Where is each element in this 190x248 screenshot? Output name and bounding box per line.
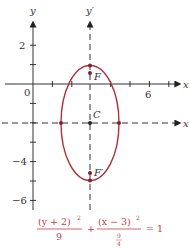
y-prime-axis-label: y′: [85, 5, 95, 16]
center-label: C: [93, 109, 101, 120]
y-axis: [30, 22, 36, 210]
eq-num1: (y + 2): [38, 216, 71, 227]
y-axis-label: y: [29, 5, 36, 16]
tick-label-x6: 6: [145, 89, 151, 100]
eq-den2-bottom: 4: [117, 240, 121, 247]
eq-den1: 9: [56, 231, 62, 242]
x-prime-axis-label: x: [183, 118, 189, 129]
eq-num2: (x − 3): [98, 216, 131, 227]
focus-f-label: F: [93, 71, 102, 82]
x-axis: [5, 81, 180, 87]
tick-label-ym4: −4: [12, 156, 27, 167]
ellipse-diagram: y 2 −4 −6 x 0 6 y′ x F C F′ (y + 2) 2 9 …: [0, 0, 190, 248]
vertex-left: [59, 121, 63, 125]
tick-label-y2: 2: [19, 40, 25, 51]
eq-equals: = 1: [146, 223, 163, 234]
eq-den2-top: 9: [117, 232, 121, 239]
tick-label-origin: 0: [24, 87, 30, 98]
focus-f-prime: [88, 171, 92, 175]
focus-f: [88, 71, 92, 75]
x-axis-label: x: [183, 79, 189, 90]
ellipse-equation: (y + 2) 2 9 + (x − 3) 2 9 4 = 1: [37, 214, 163, 247]
tick-label-ym6: −6: [12, 195, 27, 206]
vertex-bottom: [88, 179, 92, 183]
eq-exp1: 2: [77, 214, 81, 221]
eq-exp2: 2: [136, 214, 140, 221]
eq-plus: +: [87, 223, 95, 234]
vertex-right: [117, 121, 121, 125]
vertex-top: [88, 64, 92, 68]
center-c: [88, 121, 92, 125]
focus-f-prime-label: F′: [93, 167, 104, 178]
